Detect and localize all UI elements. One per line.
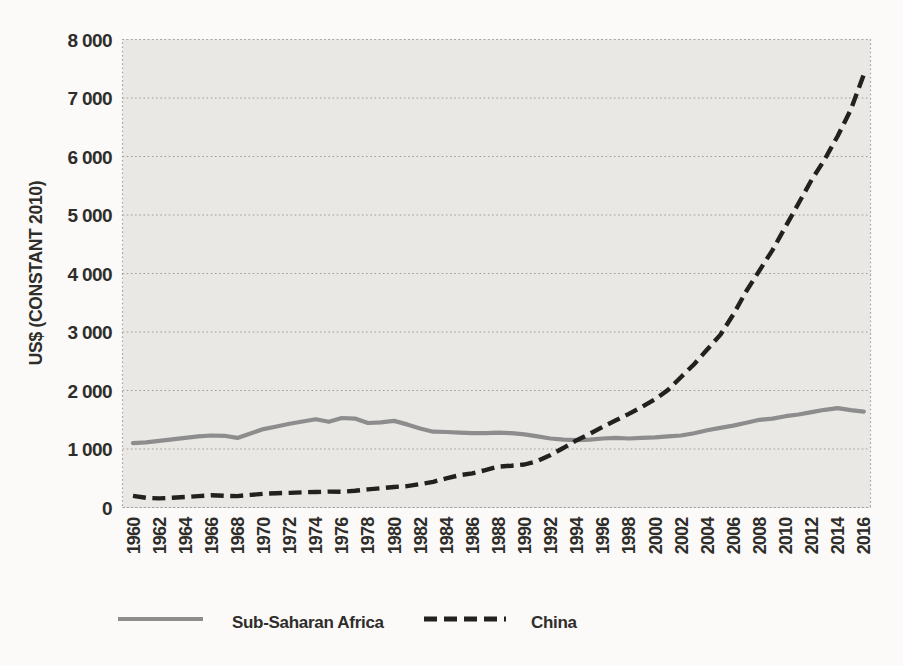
x-tick-label-1960: 1960 <box>124 517 144 555</box>
chart-figure: 01 0002 0003 0004 0005 0006 0007 0008 00… <box>0 0 903 666</box>
x-tick-label-2010: 2010 <box>776 517 796 555</box>
x-tick-label-2014: 2014 <box>828 517 848 555</box>
x-tick-label-1982: 1982 <box>411 517 431 555</box>
x-tick-label-1962: 1962 <box>150 517 170 555</box>
y-tick-label-6000: 6 000 <box>67 147 112 168</box>
line-chart: 01 0002 0003 0004 0005 0006 0007 0008 00… <box>0 0 903 666</box>
y-tick-label-1000: 1 000 <box>67 439 112 460</box>
y-tick-label-4000: 4 000 <box>67 264 112 285</box>
x-tick-label-1978: 1978 <box>358 517 378 555</box>
y-tick-label-5000: 5 000 <box>67 205 112 226</box>
x-tick-label-1988: 1988 <box>489 517 509 555</box>
x-tick-label-2016: 2016 <box>854 517 874 555</box>
x-tick-label-1964: 1964 <box>176 517 196 555</box>
x-tick-label-1974: 1974 <box>306 517 326 555</box>
x-tick-label-1996: 1996 <box>593 517 613 555</box>
y-axis-tick-labels: 01 0002 0003 0004 0005 0006 0007 0008 00… <box>67 30 112 519</box>
y-tick-label-3000: 3 000 <box>67 322 112 343</box>
y-axis-title: US$ (CONSTANT 2010) <box>26 181 46 366</box>
x-tick-label-1970: 1970 <box>254 517 274 555</box>
x-tick-label-2004: 2004 <box>698 517 718 555</box>
x-tick-label-1980: 1980 <box>385 517 405 555</box>
x-tick-label-1968: 1968 <box>228 517 248 555</box>
x-axis-tick-labels: 1960196219641966196819701972197419761978… <box>124 517 875 555</box>
x-tick-label-1994: 1994 <box>567 517 587 555</box>
x-tick-label-2002: 2002 <box>672 517 692 555</box>
y-tick-label-2000: 2 000 <box>67 381 112 402</box>
x-tick-label-1976: 1976 <box>332 517 352 555</box>
y-tick-label-7000: 7 000 <box>67 88 112 109</box>
x-tick-label-2012: 2012 <box>802 517 822 555</box>
x-tick-label-1986: 1986 <box>463 517 483 555</box>
x-tick-label-2000: 2000 <box>646 517 666 555</box>
x-tick-label-1966: 1966 <box>202 517 222 555</box>
x-tick-label-1984: 1984 <box>437 517 457 555</box>
x-tick-label-1998: 1998 <box>619 517 639 555</box>
x-tick-label-1972: 1972 <box>280 517 300 555</box>
y-tick-label-0: 0 <box>102 498 112 519</box>
x-tick-label-2006: 2006 <box>724 517 744 555</box>
x-tick-label-2008: 2008 <box>750 517 770 555</box>
y-tick-label-8000: 8 000 <box>67 30 112 51</box>
legend-label-sub-saharan-africa: Sub-Saharan Africa <box>232 613 385 632</box>
x-tick-label-1990: 1990 <box>515 517 535 555</box>
legend-label-china: China <box>531 613 578 632</box>
x-tick-label-1992: 1992 <box>541 517 561 555</box>
legend: Sub-Saharan Africa China <box>118 613 578 632</box>
